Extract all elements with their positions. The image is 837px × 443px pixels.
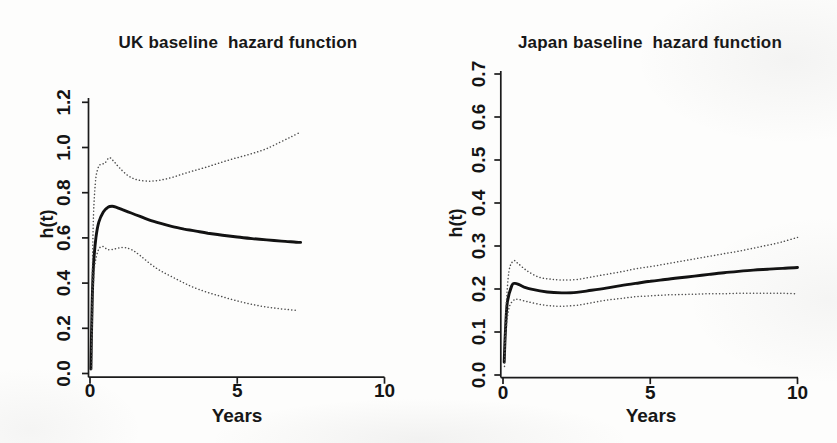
japan-y-tick-label: 0.3: [468, 233, 489, 259]
japan-chart-title: Japan baseline hazard function: [518, 33, 782, 53]
japan-y-axis-label: h(t): [446, 209, 467, 238]
figure-canvas: 0.00.20.40.60.81.01.205100.00.10.20.30.4…: [0, 0, 837, 443]
uk-y-tick-label: 0.8: [53, 179, 74, 205]
uk-x-axis-label: Years: [212, 405, 263, 427]
uk-lower-band-curve: [92, 246, 297, 369]
japan-y-tick-label: 0.6: [468, 104, 489, 130]
japan-y-tick-label: 0.7: [468, 61, 489, 87]
uk-y-tick-label: 0.4: [53, 269, 74, 296]
uk-x-tick-label: 10: [374, 380, 395, 401]
japan-plot: 0.00.10.20.30.40.50.60.70510: [468, 61, 808, 403]
hazard-plots-svg: 0.00.20.40.60.81.01.205100.00.10.20.30.4…: [0, 0, 837, 443]
uk-upper-band-curve: [92, 133, 300, 351]
uk-y-axis-label: h(t): [37, 210, 58, 239]
japan-y-tick-label: 0.1: [468, 318, 489, 345]
japan-lower-band-curve: [505, 293, 798, 366]
japan-x-tick-label: 5: [645, 382, 656, 403]
japan-y-tick-label: 0.2: [468, 276, 489, 302]
japan-y-tick-label: 0.0: [468, 362, 489, 388]
japan-y-tick-label: 0.5: [468, 146, 489, 173]
uk-chart-title: UK baseline hazard function: [119, 33, 358, 53]
japan-x-tick-label: 10: [787, 382, 808, 403]
japan-y-tick-label: 0.4: [468, 189, 489, 216]
uk-x-tick-label: 5: [232, 380, 243, 401]
uk-y-tick-label: 1.0: [53, 134, 74, 160]
uk-y-tick-label: 0.0: [53, 360, 74, 386]
uk-y-tick-label: 0.2: [53, 315, 74, 341]
japan-x-tick-label: 0: [498, 382, 509, 403]
uk-plot: 0.00.20.40.60.81.01.20510: [53, 89, 395, 401]
uk-y-tick-label: 1.2: [53, 89, 74, 115]
scanned-figure-page: { "chart_data": [ { "type": "line", "tit…: [0, 0, 837, 443]
uk-x-tick-label: 0: [85, 380, 96, 401]
japan-hazard-curve: [504, 268, 797, 363]
japan-x-axis-label: Years: [626, 405, 677, 427]
